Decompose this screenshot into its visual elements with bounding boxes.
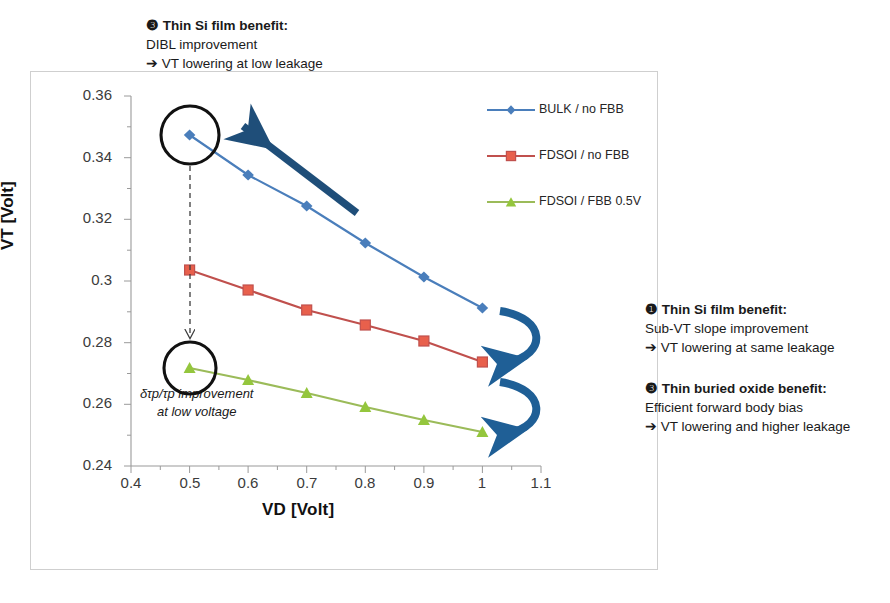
data-point-fdsoi [302,305,312,315]
curved-arrow-benefit-1 [500,311,536,362]
axis-lines [131,96,541,466]
dibl-slope-arrow [243,126,357,213]
y-axis-tick-marks [124,96,131,466]
series-fdsoi-fbb [184,362,489,437]
x-axis-tick-marks [131,466,541,473]
curved-arrow-benefit-3 [500,382,536,433]
data-point-fdsoi [243,285,253,295]
plot-canvas [0,0,890,603]
data-point-fdsoi-fbb [184,362,196,373]
chart-page: 0.36 0.34 0.32 0.3 0.28 0.26 0.24 0.4 0.… [0,0,890,603]
data-point-fdsoi [419,336,429,346]
data-point-bulk [477,303,489,314]
data-point-fdsoi [360,320,370,330]
series-bulk [184,130,488,314]
data-point-bulk [418,272,430,283]
data-point-fdsoi [477,357,487,367]
series-fdsoi [185,265,488,367]
